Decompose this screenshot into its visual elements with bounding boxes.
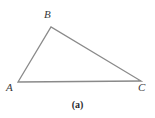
vertex-label-c: C xyxy=(138,82,145,93)
triangle-outline xyxy=(18,27,141,82)
vertex-label-b: B xyxy=(44,9,51,20)
vertex-label-a: A xyxy=(6,82,13,93)
triangle-figure: A B C (a) xyxy=(0,0,155,118)
figure-caption: (a) xyxy=(0,99,155,111)
